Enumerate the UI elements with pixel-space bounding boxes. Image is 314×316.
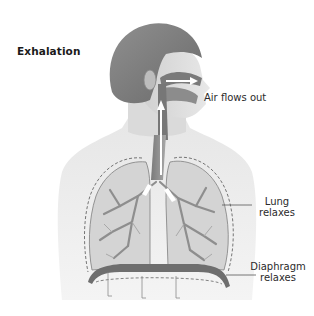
lung-label-line2: relaxes — [254, 207, 300, 218]
exhalation-diagram: Exhalation Air flows out Lung relaxes Di… — [0, 0, 314, 316]
lung-label-line1: Lung — [254, 196, 300, 207]
diaphragm-relaxes-label: Diaphragm relaxes — [249, 261, 307, 283]
lung-relaxes-label: Lung relaxes — [254, 196, 300, 218]
ear — [144, 70, 156, 90]
diagram-title: Exhalation — [17, 45, 81, 57]
air-flows-out-label: Air flows out — [204, 92, 266, 103]
diaphragm-label-line2: relaxes — [249, 272, 307, 283]
diaphragm-label-line1: Diaphragm — [249, 261, 307, 272]
